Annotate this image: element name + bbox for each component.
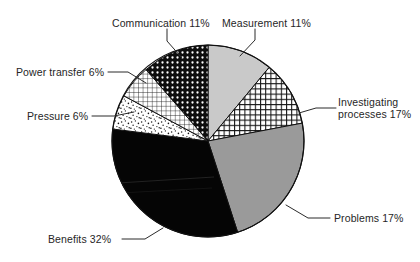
slice-label-investigating-processes: Investigating processes 17% bbox=[338, 96, 420, 120]
slice-label-problems: Problems 17% bbox=[334, 212, 403, 224]
leader-line-benefits bbox=[122, 228, 163, 239]
leader-line-investigating-processes bbox=[299, 108, 336, 113]
slice-label-investigating-processes-line1: Investigating bbox=[338, 96, 420, 108]
pie-chart: Communication 11% Measurement 11% Invest… bbox=[0, 0, 420, 262]
slice-label-measurement: Measurement 11% bbox=[222, 17, 311, 29]
slice-label-pressure: Pressure 6% bbox=[27, 110, 88, 122]
leader-line-problems bbox=[286, 205, 330, 218]
slice-label-power-transfer: Power transfer 6% bbox=[16, 66, 104, 78]
slice-label-benefits: Benefits 32% bbox=[48, 233, 111, 245]
slice-label-investigating-processes-line2: processes 17% bbox=[338, 108, 420, 120]
slice-label-communication: Communication 11% bbox=[112, 17, 210, 29]
